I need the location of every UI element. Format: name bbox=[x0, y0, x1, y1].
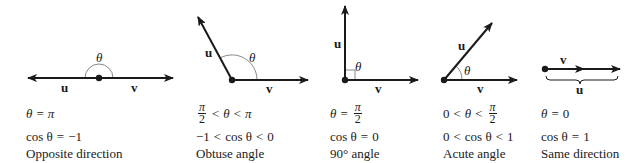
theta-label: θ bbox=[96, 50, 103, 65]
theta-label: θ bbox=[355, 59, 362, 74]
cosine: −1 < cos θ < 0 bbox=[196, 128, 274, 145]
middle: θ bbox=[465, 106, 471, 121]
origin-dot bbox=[542, 66, 548, 72]
origin-dot bbox=[441, 77, 447, 83]
operator: = bbox=[572, 129, 579, 144]
v-label: v bbox=[131, 80, 138, 95]
u-label: u bbox=[61, 80, 68, 95]
operator: < bbox=[454, 106, 461, 121]
u-label: u bbox=[205, 45, 212, 60]
middle: cos θ bbox=[225, 129, 252, 144]
cosine: cos θ = 0 bbox=[330, 128, 380, 145]
operator: = bbox=[57, 129, 64, 144]
v-label: v bbox=[560, 52, 567, 67]
obtuse-angle-text: π 2 < θ < π −1 < cos θ < 0 Obtuse angle bbox=[196, 102, 274, 162]
operator: = bbox=[361, 129, 368, 144]
angle-arc bbox=[456, 66, 462, 80]
lhs: θ bbox=[330, 106, 336, 121]
denominator: 2 bbox=[490, 114, 496, 125]
middle: cos θ bbox=[465, 129, 492, 144]
v-label: v bbox=[266, 81, 273, 96]
rhs: 0 bbox=[372, 129, 379, 144]
operator: = bbox=[36, 106, 43, 121]
lhs: cos θ bbox=[541, 129, 568, 144]
acute-angle-diagram: θ u v bbox=[441, 23, 517, 96]
caption: 90° angle bbox=[330, 145, 380, 162]
vector-angle-diagrams: θ u v θ u v θ u v θ u v v u bbox=[0, 0, 642, 100]
acute-angle-text: 0 < θ < π 2 0 < cos θ < 1 Acute angle bbox=[443, 102, 514, 162]
condition: 0 < θ < π 2 bbox=[443, 102, 514, 124]
rhs: −1 bbox=[68, 129, 82, 144]
caption: Opposite direction bbox=[26, 145, 122, 162]
v-label: v bbox=[375, 81, 382, 96]
cosine: cos θ = 1 bbox=[541, 128, 619, 145]
rhs: 0 bbox=[563, 106, 570, 121]
operator: < bbox=[212, 106, 219, 121]
caption: Obtuse angle bbox=[196, 145, 274, 162]
condition: π 2 < θ < π bbox=[196, 102, 274, 124]
rhs: π bbox=[245, 106, 252, 121]
condition: θ = π bbox=[26, 102, 122, 124]
lhs: 0 bbox=[443, 129, 450, 144]
same-direction-text: θ = 0 cos θ = 1 Same direction bbox=[541, 102, 619, 162]
obtuse-angle-diagram: θ u v bbox=[198, 17, 308, 96]
denominator: 2 bbox=[199, 114, 205, 125]
cosine: cos θ = −1 bbox=[26, 128, 122, 145]
origin-dot bbox=[229, 77, 235, 83]
operator: < bbox=[234, 106, 241, 121]
rhs: 1 bbox=[583, 129, 590, 144]
condition: θ = π 2 bbox=[330, 102, 380, 124]
operator: = bbox=[340, 106, 347, 121]
v-label: v bbox=[477, 81, 484, 96]
lhs: 0 bbox=[443, 106, 450, 121]
right-angle-diagram: θ u v bbox=[334, 6, 418, 96]
vector-u-arrow bbox=[198, 17, 232, 80]
right-angle-text: θ = π 2 cos θ = 0 90° angle bbox=[330, 102, 380, 162]
condition: θ = 0 bbox=[541, 102, 619, 124]
operator: < bbox=[496, 129, 503, 144]
lhs: cos θ bbox=[330, 129, 357, 144]
operator: < bbox=[454, 129, 461, 144]
same-direction-diagram: v u bbox=[542, 52, 620, 97]
lhs: −1 bbox=[196, 129, 210, 144]
cosine: 0 < cos θ < 1 bbox=[443, 128, 514, 145]
operator: < bbox=[256, 129, 263, 144]
origin-dot bbox=[342, 77, 348, 83]
u-label: u bbox=[334, 36, 341, 51]
operator: < bbox=[475, 106, 482, 121]
fraction: π 2 bbox=[489, 102, 497, 125]
operator: < bbox=[214, 129, 221, 144]
rhs: 0 bbox=[267, 129, 274, 144]
caption: Acute angle bbox=[443, 145, 514, 162]
lhs: θ bbox=[26, 106, 32, 121]
theta-label: θ bbox=[249, 50, 256, 65]
operator: = bbox=[551, 106, 558, 121]
lhs: θ bbox=[541, 106, 547, 121]
denominator: 2 bbox=[355, 114, 361, 125]
rhs: 1 bbox=[507, 129, 514, 144]
u-label: u bbox=[458, 38, 465, 53]
fraction: π 2 bbox=[198, 102, 206, 125]
origin-dot bbox=[96, 75, 102, 81]
caption: Same direction bbox=[541, 145, 619, 162]
lhs: cos θ bbox=[26, 129, 53, 144]
middle: θ bbox=[223, 106, 229, 121]
opposite-direction-text: θ = π cos θ = −1 Opposite direction bbox=[26, 102, 122, 162]
theta-label: θ bbox=[464, 63, 471, 78]
rhs: π bbox=[48, 106, 55, 121]
opposite-direction-diagram: θ u v bbox=[28, 50, 173, 95]
fraction: π 2 bbox=[354, 102, 362, 125]
u-label: u bbox=[576, 82, 583, 97]
